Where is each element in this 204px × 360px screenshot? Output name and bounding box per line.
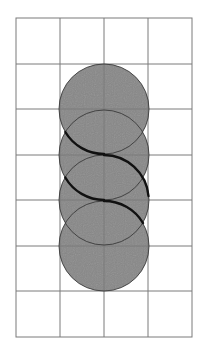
grid [16,18,192,337]
diagram-canvas [0,0,204,360]
grid-circles-figure [0,0,204,360]
